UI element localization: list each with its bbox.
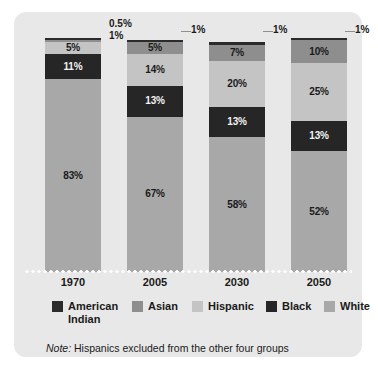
callout-leader-line [345, 31, 355, 32]
note-text: Hispanics excluded from the other four g… [71, 342, 289, 354]
legend-item-white[interactable]: White [324, 300, 370, 313]
segment-value-label: 13% [227, 117, 246, 127]
callout-2050: 1% [355, 24, 369, 36]
bar-segment-2030-asian: 7% [209, 45, 265, 61]
bar-segment-2005-asian: 5% [127, 42, 183, 54]
bar-2030: 7%20%13%58% [209, 42, 265, 272]
bar-1970: 5%11%83% [45, 38, 101, 272]
bar-segment-2005-black: 13% [127, 86, 183, 116]
bar-segment-1970-white: 83% [45, 79, 101, 272]
segment-value-label: 13% [309, 131, 328, 141]
segment-value-label: 25% [309, 87, 328, 97]
bar-segment-2030-white: 58% [209, 137, 265, 272]
x-axis-tick-2005: 2005 [127, 276, 183, 288]
bar-segment-1970-hispanic: 5% [45, 42, 101, 54]
segment-value-label: 11% [64, 62, 83, 72]
callout-leader-line [181, 31, 191, 32]
segment-value-label: 10% [309, 47, 328, 57]
segment-value-label: 83% [63, 171, 82, 181]
callout-leader-line [263, 31, 273, 32]
legend-label: Hispanic [208, 300, 254, 313]
bar-segment-2005-white: 67% [127, 117, 183, 272]
bar-segment-2030-black: 13% [209, 107, 265, 137]
legend-label: Black [282, 300, 311, 313]
legend-swatch-icon [324, 301, 335, 312]
segment-value-label: 52% [309, 207, 328, 217]
segment-value-label: 58% [227, 200, 246, 210]
segment-value-label: 5% [148, 43, 162, 53]
bar-segment-2050-hispanic: 25% [291, 63, 347, 121]
x-axis-tick-2050: 2050 [291, 276, 347, 288]
x-axis: 1970200520302050 [14, 276, 362, 294]
segment-value-label: 20% [227, 79, 246, 89]
legend-label: White [340, 300, 370, 313]
legend-item-american[interactable]: American Indian [52, 300, 118, 326]
chart-note: Note: Hispanics excluded from the other … [46, 342, 346, 354]
chart-card: 5%11%83%5%14%13%67%7%20%13%58%10%25%13%5… [14, 12, 362, 357]
bar-2005: 5%14%13%67% [127, 40, 183, 272]
legend-label: American Indian [68, 300, 118, 326]
bar-segment-1970-black: 11% [45, 54, 101, 80]
legend-item-hispanic[interactable]: Hispanic [192, 300, 254, 313]
callout-2030: 1% [273, 24, 287, 36]
chart-legend: American IndianAsianHispanicBlackWhite [14, 300, 362, 334]
segment-value-label: 67% [145, 189, 164, 199]
legend-label: Asian [148, 300, 178, 313]
bar-segment-2050-white: 52% [291, 151, 347, 272]
segment-value-label: 14% [145, 65, 164, 75]
note-prefix: Note: [46, 342, 71, 354]
callout-1970: 0.5% 1% [109, 18, 132, 41]
segment-value-label: 13% [145, 96, 164, 106]
legend-item-asian[interactable]: Asian [132, 300, 178, 313]
bar-segment-2030-hispanic: 20% [209, 61, 265, 107]
x-axis-tick-1970: 1970 [45, 276, 101, 288]
bar-segment-2050-asian: 10% [291, 40, 347, 63]
legend-swatch-icon [266, 301, 277, 312]
legend-swatch-icon [52, 301, 63, 312]
segment-value-label: 7% [230, 48, 244, 58]
segment-value-label: 5% [66, 43, 80, 53]
legend-item-black[interactable]: Black [266, 300, 311, 313]
bar-segment-2005-hispanic: 14% [127, 54, 183, 86]
bar-segment-2050-black: 13% [291, 121, 347, 151]
baseline-dotted-rule [24, 270, 352, 273]
callout-2005: 1% [191, 24, 205, 36]
legend-swatch-icon [192, 301, 203, 312]
bar-2050: 10%25%13%52% [291, 38, 347, 272]
legend-swatch-icon [132, 301, 143, 312]
x-axis-tick-2030: 2030 [209, 276, 265, 288]
chart-plot-area: 5%11%83%5%14%13%67%7%20%13%58%10%25%13%5… [14, 12, 362, 272]
